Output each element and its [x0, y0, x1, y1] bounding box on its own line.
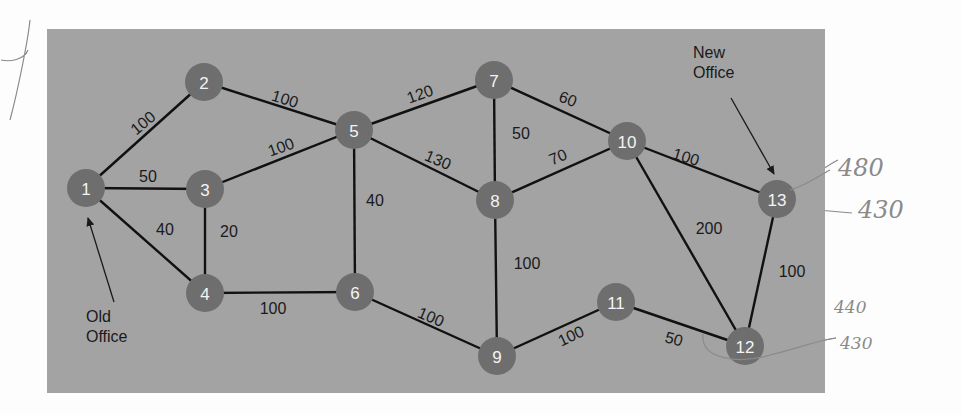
new-office-label: Office	[693, 64, 735, 81]
node-label: 8	[490, 192, 499, 211]
node-4: 4	[186, 274, 224, 312]
edge-weight-10-12: 200	[696, 220, 723, 237]
handwritten-value: 480	[837, 154, 884, 182]
node-3: 3	[186, 170, 224, 208]
node-1: 1	[67, 169, 105, 207]
scribble-x-mark	[1, 20, 30, 120]
edge-weight-8-9: 100	[514, 255, 541, 272]
node-label: 3	[200, 181, 209, 200]
node-5: 5	[335, 111, 373, 149]
node-label: 5	[349, 122, 358, 141]
diagram-panel	[47, 29, 825, 393]
edge-5-6	[354, 130, 355, 292]
node-label: 10	[618, 133, 637, 152]
handwritten-value: 430	[839, 333, 873, 353]
edge-weight-5-6: 40	[366, 192, 384, 209]
node-label: 13	[768, 191, 787, 210]
node-label: 9	[492, 348, 501, 367]
edge-weight-3-4: 20	[220, 223, 238, 240]
node-7: 7	[475, 61, 513, 99]
node-6: 6	[336, 273, 374, 311]
node-label: 11	[607, 294, 625, 313]
old-office-label: Office	[86, 328, 128, 345]
edge-weight-1-3: 50	[139, 168, 157, 185]
edge-weight-13-12: 100	[779, 263, 806, 280]
node-label: 7	[489, 72, 498, 91]
edge-weight-1-4: 40	[156, 221, 174, 238]
edge-weight-4-6: 100	[260, 300, 287, 317]
node-8: 8	[476, 181, 514, 219]
handwritten-value: 440	[833, 297, 867, 317]
old-office-label: Old	[86, 308, 111, 325]
node-label: 6	[350, 284, 359, 303]
edge-weight-7-8: 50	[512, 125, 530, 142]
node-11: 11	[597, 283, 635, 321]
new-office-label: New	[693, 44, 725, 61]
node-9: 9	[478, 337, 516, 375]
node-label: 2	[199, 74, 208, 93]
edge-4-6	[205, 292, 355, 293]
node-label: 1	[81, 180, 90, 199]
node-label: 12	[736, 338, 755, 357]
network-diagram: 1005040100100201004012013050607010010010…	[0, 0, 962, 415]
handwritten-value: 430	[857, 196, 904, 224]
node-10: 10	[608, 122, 646, 160]
node-label: 4	[200, 285, 209, 304]
node-13: 13	[758, 180, 796, 218]
node-2: 2	[185, 63, 223, 101]
